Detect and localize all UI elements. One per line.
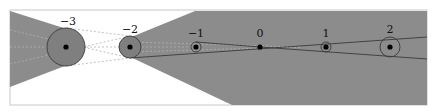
point-2 [387,44,392,49]
cone-diagram: −3 −2 −1 0 1 2 [0,0,439,112]
point-neg3 [63,44,68,49]
point-0 [257,44,262,49]
label-neg3: −3 [60,15,76,28]
label-1: 1 [323,27,330,40]
label-2: 2 [387,23,394,36]
point-neg1 [193,44,198,49]
point-1 [323,44,328,49]
label-0: 0 [257,27,264,40]
point-neg2 [127,44,132,49]
label-neg2: −2 [122,23,138,36]
label-neg1: −1 [188,27,204,40]
